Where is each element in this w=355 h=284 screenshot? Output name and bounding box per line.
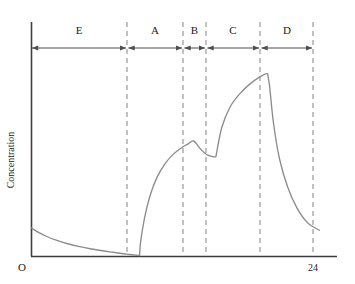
phase-label-e: E bbox=[76, 24, 83, 36]
phase-label-c: C bbox=[229, 24, 236, 36]
phase-label-b: B bbox=[191, 24, 198, 36]
phase-label-d: D bbox=[283, 24, 291, 36]
origin-label: O bbox=[18, 261, 26, 273]
chart-svg: E A B C D O 24 Concentration bbox=[0, 0, 355, 284]
concentration-time-chart: E A B C D O 24 Concentration bbox=[0, 0, 355, 284]
concentration-curve bbox=[32, 74, 320, 256]
y-axis-title: Concentration bbox=[5, 132, 16, 189]
axes bbox=[31, 22, 337, 257]
phase-label-a: A bbox=[151, 24, 159, 36]
phase-boundary-lines bbox=[127, 22, 313, 256]
x-axis-tick-24: 24 bbox=[308, 262, 318, 273]
